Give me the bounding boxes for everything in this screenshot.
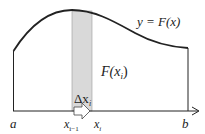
axis-label-x-i: xi xyxy=(93,117,101,133)
axis-label-x-i-minus-1: xi−1 xyxy=(63,117,79,133)
axis-label-a: a xyxy=(10,116,17,131)
riemann-sum-diagram: y = F(x) F(xi) Δxi a b xi−1 xi xyxy=(0,0,205,134)
strip-height-label: F(xi) xyxy=(100,64,128,81)
curve-label: y = F(x) xyxy=(135,14,180,29)
delta-x-label: Δxi xyxy=(74,91,91,108)
axis-label-b: b xyxy=(182,116,189,131)
